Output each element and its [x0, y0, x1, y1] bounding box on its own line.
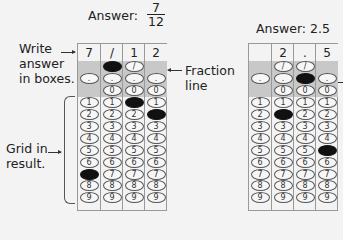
answer-bubble-5[interactable]: 5 — [147, 145, 166, 156]
answer-bubble-5[interactable]: 5 — [125, 145, 144, 156]
answer-bubble-0[interactable]: 0 — [147, 85, 166, 96]
answer-bubble-3[interactable]: 3 — [251, 121, 270, 132]
answer-bubble-6[interactable]: 6 — [296, 157, 315, 168]
answer-bubble-7[interactable]: 7 — [103, 169, 122, 180]
answer-bubble-6[interactable]: 6 — [318, 157, 337, 168]
answer-bubble-8[interactable]: 8 — [125, 180, 144, 191]
answer-box[interactable]: 5 — [316, 44, 338, 62]
answer-bubble-9[interactable]: 9 — [296, 192, 315, 203]
answer-bubble-slash[interactable]: / — [274, 61, 293, 72]
answer-bubble-4[interactable]: 4 — [147, 133, 166, 144]
answer-bubble-9[interactable]: 9 — [274, 192, 293, 203]
answer-bubble-dot[interactable]: . — [80, 73, 99, 84]
answer-bubble-3[interactable]: 3 — [80, 121, 99, 132]
answer-bubble-7[interactable]: 7 — [80, 169, 99, 180]
answer-bubble-1[interactable]: 1 — [147, 97, 166, 108]
answer-bubble-9[interactable]: 9 — [125, 192, 144, 203]
answer-bubble-3[interactable]: 3 — [103, 121, 122, 132]
answer-bubble-dot[interactable]: . — [318, 73, 337, 84]
answer-bubble-8[interactable]: 8 — [251, 180, 270, 191]
answer-bubble-2[interactable]: 2 — [103, 109, 122, 120]
answer-bubble-8[interactable]: 8 — [103, 180, 122, 191]
answer-bubble-8[interactable]: 8 — [147, 180, 166, 191]
answer-bubble-slash[interactable]: / — [103, 61, 122, 72]
answer-bubble-5[interactable]: 5 — [318, 145, 337, 156]
answer-bubble-0[interactable]: 0 — [125, 85, 144, 96]
answer-bubble-7[interactable]: 7 — [147, 169, 166, 180]
answer-bubble-2[interactable]: 2 — [125, 109, 144, 120]
answer-bubble-5[interactable]: 5 — [80, 145, 99, 156]
answer-bubble-dot[interactable]: . — [103, 73, 122, 84]
answer-bubble-1[interactable]: 1 — [318, 97, 337, 108]
answer-bubble-3[interactable]: 3 — [318, 121, 337, 132]
answer-bubble-4[interactable]: 4 — [125, 133, 144, 144]
answer-bubble-9[interactable]: 9 — [103, 192, 122, 203]
bubble-cell: 6 — [78, 156, 100, 168]
answer-bubble-slash[interactable]: / — [125, 61, 144, 72]
answer-bubble-dot[interactable]: . — [125, 73, 144, 84]
answer-bubble-7[interactable]: 7 — [251, 169, 270, 180]
answer-bubble-5[interactable]: 5 — [296, 145, 315, 156]
answer-bubble-8[interactable]: 8 — [80, 180, 99, 191]
answer-bubble-dot[interactable]: . — [147, 73, 166, 84]
answer-bubble-1[interactable]: 1 — [296, 97, 315, 108]
answer-bubble-6[interactable]: 6 — [251, 157, 270, 168]
answer-bubble-6[interactable]: 6 — [103, 157, 122, 168]
answer-bubble-4[interactable]: 4 — [274, 133, 293, 144]
answer-bubble-4[interactable]: 4 — [296, 133, 315, 144]
answer-bubble-5[interactable]: 5 — [274, 145, 293, 156]
answer-bubble-6[interactable]: 6 — [274, 157, 293, 168]
answer-bubble-7[interactable]: 7 — [318, 169, 337, 180]
answer-box[interactable]: . — [294, 44, 316, 62]
answer-bubble-0[interactable]: 0 — [296, 85, 315, 96]
answer-bubble-2[interactable]: 2 — [296, 109, 315, 120]
answer-box[interactable]: 7 — [78, 44, 100, 62]
answer-bubble-4[interactable]: 4 — [80, 133, 99, 144]
answer-bubble-4[interactable]: 4 — [318, 133, 337, 144]
answer-bubble-9[interactable]: 9 — [251, 192, 270, 203]
answer-bubble-1[interactable]: 1 — [274, 97, 293, 108]
answer-bubble-1[interactable]: 1 — [125, 97, 144, 108]
answer-box[interactable] — [249, 44, 271, 62]
answer-bubble-7[interactable]: 7 — [274, 169, 293, 180]
answer-bubble-8[interactable]: 8 — [296, 180, 315, 191]
answer-bubble-2[interactable]: 2 — [251, 109, 270, 120]
bubble-cell: 7 — [294, 168, 316, 180]
answer-bubble-slash[interactable]: / — [296, 61, 315, 72]
answer-bubble-9[interactable]: 9 — [80, 192, 99, 203]
answer-bubble-9[interactable]: 9 — [318, 192, 337, 203]
answer-bubble-5[interactable]: 5 — [103, 145, 122, 156]
answer-bubble-7[interactable]: 7 — [125, 169, 144, 180]
answer-bubble-0[interactable]: 0 — [274, 85, 293, 96]
answer-bubble-dot[interactable]: . — [296, 73, 315, 84]
answer-bubble-2[interactable]: 2 — [318, 109, 337, 120]
answer-box[interactable]: 2 — [145, 44, 167, 62]
answer-bubble-8[interactable]: 8 — [274, 180, 293, 191]
answer-bubble-7[interactable]: 7 — [296, 169, 315, 180]
answer-bubble-3[interactable]: 3 — [274, 121, 293, 132]
answer-bubble-2[interactable]: 2 — [80, 109, 99, 120]
answer-bubble-3[interactable]: 3 — [125, 121, 144, 132]
answer-bubble-4[interactable]: 4 — [251, 133, 270, 144]
answer-bubble-9[interactable]: 9 — [147, 192, 166, 203]
answer-bubble-3[interactable]: 3 — [147, 121, 166, 132]
answer-bubble-1[interactable]: 1 — [251, 97, 270, 108]
answer-bubble-0[interactable]: 0 — [103, 85, 122, 96]
answer-box[interactable]: 2 — [272, 44, 294, 62]
answer-bubble-1[interactable]: 1 — [80, 97, 99, 108]
answer-bubble-2[interactable]: 2 — [274, 109, 293, 120]
answer-bubble-3[interactable]: 3 — [296, 121, 315, 132]
answer-bubble-6[interactable]: 6 — [147, 157, 166, 168]
answer-bubble-6[interactable]: 6 — [125, 157, 144, 168]
answer-bubble-4[interactable]: 4 — [103, 133, 122, 144]
answer-box[interactable]: 1 — [123, 44, 145, 62]
answer-box[interactable]: / — [101, 44, 123, 62]
answer-bubble-dot[interactable]: . — [274, 73, 293, 84]
answer-bubble-0[interactable]: 0 — [318, 85, 337, 96]
answer-bubble-5[interactable]: 5 — [251, 145, 270, 156]
answer-bubble-dot[interactable]: . — [251, 73, 270, 84]
answer-bubble-1[interactable]: 1 — [103, 97, 122, 108]
answer-bubble-8[interactable]: 8 — [318, 180, 337, 191]
answer-bubble-6[interactable]: 6 — [80, 157, 99, 168]
answer-bubble-2[interactable]: 2 — [147, 109, 166, 120]
